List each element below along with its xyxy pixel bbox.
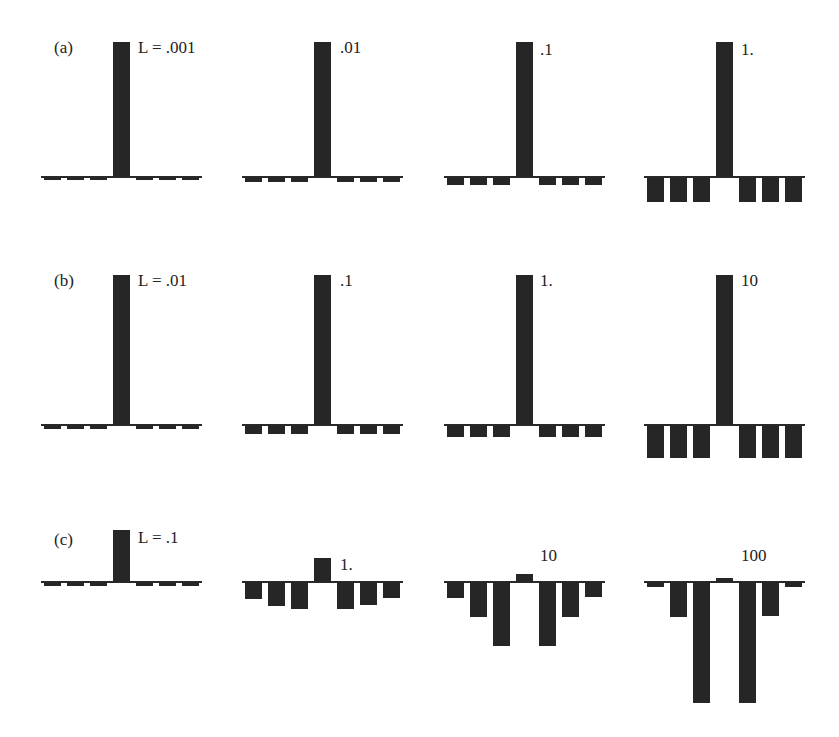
panel-b1-label: L = .01: [138, 271, 187, 291]
bar: [539, 425, 556, 437]
panel-a4-label: 1.: [741, 40, 754, 60]
bar: [383, 177, 400, 182]
bar: [647, 582, 664, 587]
bar: [360, 582, 377, 605]
bar: [291, 177, 308, 182]
bar: [67, 425, 84, 429]
bar: [44, 177, 61, 180]
row-label-b: (b): [54, 271, 74, 291]
bar: [785, 425, 802, 458]
panel-a2-label: .01: [340, 38, 361, 58]
panel-b2-label: .1: [340, 271, 353, 291]
bar: [670, 177, 687, 202]
bar: [44, 425, 61, 429]
bar: [337, 425, 354, 434]
bar: [516, 574, 533, 582]
bar: [159, 425, 176, 429]
bar: [693, 425, 710, 458]
bar: [670, 582, 687, 617]
bar: [314, 558, 331, 582]
bar: [762, 177, 779, 202]
bar: [739, 425, 756, 458]
bar: [470, 177, 487, 185]
panel-a1-label: L = .001: [138, 38, 196, 58]
bar: [585, 177, 602, 185]
bar: [693, 177, 710, 202]
bar: [383, 425, 400, 434]
bar: [739, 177, 756, 202]
bar: [67, 177, 84, 180]
bar: [113, 275, 130, 425]
bar: [562, 582, 579, 617]
bar: [562, 425, 579, 437]
bar: [585, 582, 602, 597]
bar: [493, 425, 510, 437]
bar: [739, 582, 756, 703]
panel-c2-label: 1.: [340, 555, 353, 575]
bar: [182, 177, 199, 180]
bar: [670, 425, 687, 458]
bar: [785, 177, 802, 202]
bar: [447, 425, 464, 437]
panel-b4-label: 10: [741, 271, 758, 291]
panel-c3-label: 10: [540, 546, 557, 566]
bar: [516, 275, 533, 425]
bar: [716, 42, 733, 177]
bar: [136, 425, 153, 429]
bar: [693, 582, 710, 703]
bar: [182, 425, 199, 429]
panel-c4-label: 100: [741, 546, 767, 566]
bar: [182, 582, 199, 586]
bar: [268, 582, 285, 606]
row-label-c: (c): [54, 530, 73, 550]
bar: [516, 42, 533, 177]
bar: [268, 425, 285, 434]
panel-b3-label: 1.: [540, 271, 553, 291]
bar: [245, 425, 262, 434]
bar: [291, 425, 308, 434]
bar: [314, 275, 331, 425]
row-label-a: (a): [54, 38, 73, 58]
bar: [493, 177, 510, 185]
bar: [716, 275, 733, 425]
bar: [113, 42, 130, 177]
bar: [44, 582, 61, 586]
bar: [716, 578, 733, 582]
bar: [90, 177, 107, 180]
bar: [291, 582, 308, 609]
bar: [447, 582, 464, 598]
panel-c1-label: L = .1: [138, 528, 179, 548]
bar: [360, 177, 377, 182]
bar: [470, 582, 487, 617]
bar: [245, 177, 262, 182]
panel-a3-label: .1: [540, 40, 553, 60]
bar: [337, 582, 354, 609]
bar: [762, 425, 779, 458]
bar: [539, 582, 556, 646]
bar: [90, 582, 107, 586]
bar: [785, 582, 802, 587]
bar: [159, 177, 176, 180]
bar: [245, 582, 262, 599]
bar: [136, 582, 153, 586]
bar: [90, 425, 107, 429]
bar: [647, 177, 664, 202]
bar: [383, 582, 400, 598]
bar: [113, 530, 130, 582]
bar: [493, 582, 510, 646]
bar: [136, 177, 153, 180]
bar: [447, 177, 464, 185]
bar: [159, 582, 176, 586]
bar: [268, 177, 285, 182]
bar: [585, 425, 602, 437]
bar: [337, 177, 354, 182]
bar: [562, 177, 579, 185]
bar: [762, 582, 779, 616]
bar: [470, 425, 487, 437]
bar: [360, 425, 377, 434]
bar: [314, 42, 331, 177]
bar: [647, 425, 664, 458]
bar: [67, 582, 84, 586]
bar: [539, 177, 556, 185]
